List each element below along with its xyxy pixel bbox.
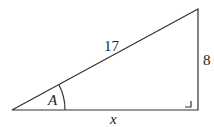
opposite-label: 8 xyxy=(203,52,211,68)
angle-arc xyxy=(59,85,65,110)
triangle xyxy=(12,9,198,110)
right-angle-mark xyxy=(185,101,191,107)
adjacent-label: x xyxy=(109,111,117,127)
triangle-diagram: 17 8 x A xyxy=(0,0,214,127)
hypotenuse-label: 17 xyxy=(104,38,120,54)
angle-label: A xyxy=(47,92,58,108)
